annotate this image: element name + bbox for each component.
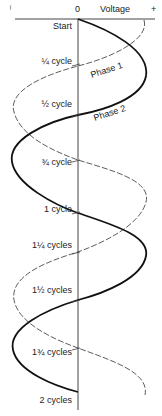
time-label-start: Start [53,21,72,31]
time-label-threequarter: ¾ cycle [41,157,72,167]
axis-zero-label: 0 [75,4,80,14]
axis-minus-label: – [7,5,16,9]
arrow-tick-threequarter [72,160,80,162]
phase1-curve [13,20,146,395]
time-label-1half: 1½ cycles [32,285,72,295]
time-label-1threequarter: 1¾ cycles [32,347,72,357]
time-label-quarter: ¼ cycle [41,56,72,66]
axis-plus-label: + [151,4,156,14]
axis-title: Voltage [100,4,130,14]
phase2-curve [12,19,147,392]
time-label-half: ½ cycle [41,99,72,109]
time-label-1quarter: 1¼ cycles [32,240,72,250]
phase-diagram [0,0,162,416]
time-label-1: 1 cycle [44,204,72,214]
arrow-tick-1quarter [72,252,80,254]
time-label-2: 2 cycles [39,395,72,405]
arrow-tick-1threequarter [72,348,80,350]
